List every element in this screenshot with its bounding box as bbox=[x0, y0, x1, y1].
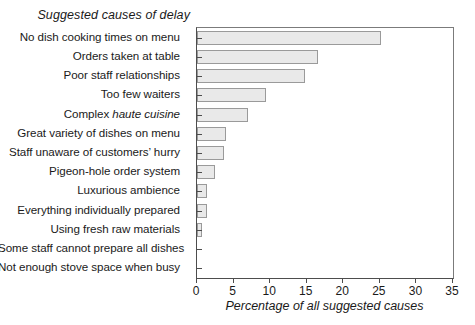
y-axis-tick bbox=[197, 230, 202, 231]
x-axis-tick bbox=[233, 278, 234, 283]
category-label-text: Using fresh raw materials bbox=[50, 222, 180, 235]
category-label: Staff unaware of customers’ hurry bbox=[0, 145, 180, 158]
horizontal-bar-chart: Suggested causes of delay No dish cookin… bbox=[0, 0, 475, 325]
x-axis-tick-label: 30 bbox=[395, 284, 435, 298]
category-label: Complex haute cuisine bbox=[0, 107, 180, 120]
category-label-text: Complex bbox=[64, 107, 113, 120]
bar bbox=[197, 88, 266, 102]
category-label: Too few waiters bbox=[0, 87, 180, 100]
x-axis-tick-label: 25 bbox=[359, 284, 399, 298]
x-axis-title: Percentage of all suggested causes bbox=[196, 299, 453, 313]
category-label: No dish cooking times on menu bbox=[0, 30, 180, 43]
bar bbox=[197, 50, 318, 64]
category-label-column: No dish cooking times on menuOrders take… bbox=[0, 27, 188, 277]
category-label: Luxurious ambience bbox=[0, 183, 180, 196]
category-label: Orders taken at table bbox=[0, 49, 180, 62]
x-axis-tick-label: 15 bbox=[286, 284, 326, 298]
category-label-text: Not enough stove space when busy bbox=[0, 260, 180, 273]
category-label: Using fresh raw materials bbox=[0, 222, 180, 235]
category-label: Everything individually prepared bbox=[0, 203, 180, 216]
y-axis-tick bbox=[197, 249, 202, 250]
x-axis-tick-label: 35 bbox=[432, 284, 472, 298]
y-axis-tick bbox=[197, 38, 202, 39]
category-label-text: Poor staff relationships bbox=[63, 68, 180, 81]
category-label-text: Pigeon-hole order system bbox=[49, 164, 180, 177]
category-label-text: Orders taken at table bbox=[73, 49, 180, 62]
category-label: Pigeon-hole order system bbox=[0, 164, 180, 177]
y-axis-tick bbox=[197, 57, 202, 58]
y-axis-tick bbox=[197, 172, 202, 173]
x-axis-tick-label: 20 bbox=[322, 284, 362, 298]
x-axis-tick-label: 0 bbox=[176, 284, 216, 298]
chart-category-axis-title: Suggested causes of delay bbox=[37, 8, 190, 22]
x-axis-tick bbox=[196, 278, 197, 283]
category-label-text: Great variety of dishes on menu bbox=[17, 126, 180, 139]
x-axis-tick bbox=[342, 278, 343, 283]
category-label-text: No dish cooking times on menu bbox=[20, 30, 180, 43]
bar bbox=[197, 31, 381, 45]
y-axis-tick bbox=[197, 115, 202, 116]
y-axis-tick bbox=[197, 211, 202, 212]
bar bbox=[197, 108, 248, 122]
y-axis-tick bbox=[197, 134, 202, 135]
y-axis-tick bbox=[197, 76, 202, 77]
x-axis-tick-label: 10 bbox=[249, 284, 289, 298]
category-label-emphasis: haute cuisine bbox=[112, 107, 180, 120]
plot-area bbox=[196, 27, 454, 279]
y-axis-tick bbox=[197, 95, 202, 96]
bar bbox=[197, 69, 305, 83]
x-axis-tick bbox=[379, 278, 380, 283]
y-axis-tick bbox=[197, 191, 202, 192]
x-axis-tick bbox=[452, 278, 453, 283]
category-label: Poor staff relationships bbox=[0, 68, 180, 81]
category-label-text: Some staff cannot prepare all dishes bbox=[0, 241, 184, 254]
category-label-text: Too few waiters bbox=[101, 87, 180, 100]
category-label-text: Luxurious ambience bbox=[77, 183, 180, 196]
category-label: Great variety of dishes on menu bbox=[0, 126, 180, 139]
category-label-text: Everything individually prepared bbox=[17, 203, 180, 216]
category-label: Not enough stove space when busy bbox=[0, 260, 180, 273]
x-axis-tick-label: 5 bbox=[213, 284, 253, 298]
x-axis-tick bbox=[415, 278, 416, 283]
x-axis-tick bbox=[306, 278, 307, 283]
category-label: Some staff cannot prepare all dishes bbox=[0, 241, 180, 254]
category-label-text: Staff unaware of customers’ hurry bbox=[9, 145, 180, 158]
y-axis-tick bbox=[197, 153, 202, 154]
x-axis-tick bbox=[269, 278, 270, 283]
y-axis-tick bbox=[197, 268, 202, 269]
